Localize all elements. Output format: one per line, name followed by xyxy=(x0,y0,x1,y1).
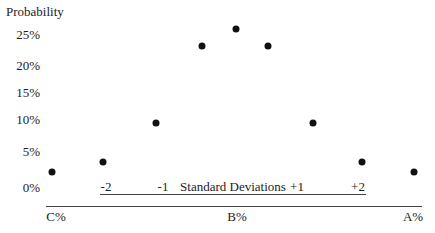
sd-tick-minus-2: -2 xyxy=(101,180,112,194)
y-tick-0: 0% xyxy=(0,181,40,195)
y-tick-25: 25% xyxy=(0,28,40,42)
y-tick-5: 5% xyxy=(0,145,40,159)
x-axis-line xyxy=(46,206,422,207)
y-axis-label: Probability xyxy=(6,5,64,19)
y-tick-10: 10% xyxy=(0,113,40,127)
data-point xyxy=(153,120,160,127)
y-tick-15: 15% xyxy=(0,86,40,100)
sd-tick-plus-2: +2 xyxy=(351,180,365,194)
x-category-c: C% xyxy=(46,210,66,224)
x-category-b: B% xyxy=(227,210,247,224)
sd-tick-plus-1: +1 xyxy=(290,180,304,194)
sd-axis-line xyxy=(100,194,366,195)
data-point xyxy=(411,169,418,176)
data-point xyxy=(310,120,317,127)
data-point xyxy=(265,43,272,50)
data-point xyxy=(100,159,107,166)
sd-axis-label: Standard Deviations xyxy=(180,180,286,194)
data-point xyxy=(199,43,206,50)
data-point xyxy=(359,159,366,166)
data-point xyxy=(49,169,56,176)
y-tick-20: 20% xyxy=(0,59,40,73)
data-point xyxy=(233,26,240,33)
sd-tick-minus-1: -1 xyxy=(158,180,169,194)
x-category-a: A% xyxy=(403,210,423,224)
